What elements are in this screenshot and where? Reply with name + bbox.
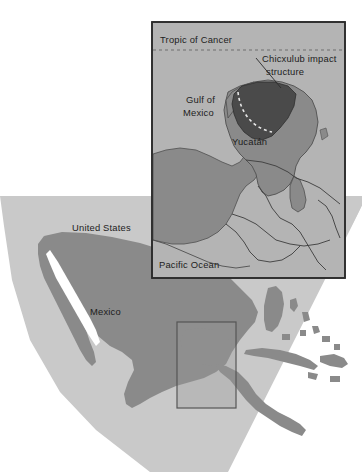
inset-label-tropic-of-cancer: Tropic of Cancer	[160, 34, 232, 45]
inset-label-pacific-ocean: Pacific Ocean	[159, 259, 219, 270]
main-label-united-states: United States	[72, 222, 131, 233]
main-label-mexico: Mexico	[90, 306, 121, 317]
inset-label-yucatan: Yucatán	[232, 136, 267, 147]
map-canvas: United States Mexico	[0, 0, 362, 472]
inset-label-chicxulub-line1: Chicxulub impact	[262, 53, 337, 64]
inset-content: Tropic of Cancer Gulf of Mexico Chicxulu…	[153, 23, 344, 277]
inset-map-layer: Tropic of Cancer Gulf of Mexico Chicxulu…	[152, 22, 345, 278]
map-figure: United States Mexico	[0, 0, 362, 472]
inset-label-gulf-of-mexico-line1: Gulf of	[186, 94, 215, 105]
inset-extent-box	[177, 322, 236, 408]
inset-label-chicxulub-line2: structure	[266, 66, 304, 77]
inset-label-gulf-of-mexico-line2: Mexico	[183, 107, 214, 118]
